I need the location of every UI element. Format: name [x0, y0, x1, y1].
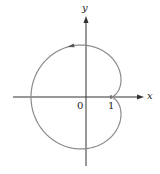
x-axis-arrow-icon — [137, 95, 144, 100]
y-axis-label: y — [82, 3, 88, 13]
tick-label-1: 1 — [108, 101, 114, 111]
x-axis-label: x — [147, 91, 153, 101]
cardioid-figure: y x 0 1 — [0, 0, 160, 174]
plot-canvas — [0, 0, 160, 174]
direction-arrow-icon — [67, 43, 74, 47]
y-axis-arrow-icon — [84, 16, 89, 23]
origin-label: 0 — [77, 101, 83, 111]
